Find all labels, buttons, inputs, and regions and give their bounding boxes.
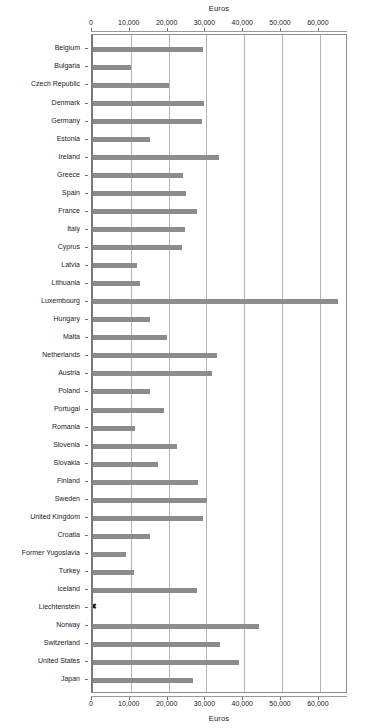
category-axis-tick — [85, 66, 88, 67]
category-axis-tick — [85, 157, 88, 158]
bar-row: ✖ — [93, 599, 346, 617]
bar-row — [93, 76, 346, 94]
bar — [93, 678, 193, 683]
x-tick-label: 30,000 — [194, 700, 215, 707]
category-label: Austria — [58, 368, 80, 377]
euros-bar-chart: Euros 010,00020,00030,00040,00050,00060,… — [0, 0, 365, 728]
category-axis-tick — [85, 355, 88, 356]
category-axis-tick — [85, 535, 88, 536]
category-label: Germany — [51, 116, 80, 125]
bar-row — [93, 221, 346, 239]
bar-row — [93, 437, 346, 455]
category-label: Iceland — [57, 584, 80, 593]
category-label: Japan — [61, 674, 80, 683]
category-label: Malta — [63, 332, 80, 341]
category-label: Portugal — [54, 404, 80, 413]
category-axis-tick — [85, 409, 88, 410]
bar — [93, 173, 183, 178]
category-label: Sweden — [55, 494, 80, 503]
bar — [93, 101, 204, 106]
category-label: United States — [38, 656, 80, 665]
bar — [93, 389, 150, 394]
bar-row — [93, 383, 346, 401]
category-label: Bulgaria — [54, 61, 80, 70]
bar — [93, 83, 169, 88]
bar-row — [93, 167, 346, 185]
bottom-axis-title: Euros — [91, 714, 347, 723]
bar-row — [93, 509, 346, 527]
category-label: Finland — [57, 476, 80, 485]
bar — [93, 534, 150, 539]
category-label: Italy — [67, 224, 80, 233]
x-axis-tick — [129, 697, 130, 700]
bar — [93, 155, 219, 160]
category-axis-tick — [85, 589, 88, 590]
bar-row — [93, 203, 346, 221]
category-axis-tick — [85, 427, 88, 428]
x-tick-label: 10,000 — [118, 19, 139, 26]
bar — [93, 317, 150, 322]
category-axis-tick — [85, 211, 88, 212]
category-axis-tick — [85, 661, 88, 662]
x-tick-label: 40,000 — [232, 19, 253, 26]
bar — [93, 335, 167, 340]
category-label: Spain — [62, 188, 80, 197]
bar-row — [93, 545, 346, 563]
bar-row — [93, 58, 346, 76]
x-axis-tick — [318, 28, 319, 31]
category-axis-tick — [85, 499, 88, 500]
bar — [93, 299, 338, 304]
bar — [93, 426, 135, 431]
bar — [93, 624, 259, 629]
x-axis-tick — [280, 697, 281, 700]
bar-row — [93, 635, 346, 653]
x-tick-label: 30,000 — [194, 19, 215, 26]
bar-row — [93, 329, 346, 347]
bar-row — [93, 275, 346, 293]
x-tick-label: 20,000 — [156, 19, 177, 26]
category-label: Czech Republic — [31, 79, 80, 88]
bar-row — [93, 257, 346, 275]
bar-row — [93, 365, 346, 383]
category-axis-tick — [85, 463, 88, 464]
category-label: Croatia — [57, 530, 80, 539]
x-axis-tick — [318, 697, 319, 700]
x-axis-tick — [91, 697, 92, 700]
category-axis-tick — [85, 679, 88, 680]
x-tick-label: 0 — [89, 700, 93, 707]
x-axis-tick — [129, 28, 130, 31]
category-label: Cyprus — [58, 242, 80, 251]
bar — [93, 371, 212, 376]
category-axis-tick — [85, 283, 88, 284]
category-axis-tick — [85, 193, 88, 194]
category-axis-tick — [85, 625, 88, 626]
category-axis-tick — [85, 643, 88, 644]
category-axis-tick — [85, 373, 88, 374]
category-label: Hungary — [54, 314, 80, 323]
category-axis-tick — [85, 301, 88, 302]
x-tick-label: 10,000 — [118, 700, 139, 707]
bar-row — [93, 149, 346, 167]
bar — [93, 480, 198, 485]
x-axis-tick — [204, 28, 205, 31]
bar-row — [93, 131, 346, 149]
category-axis-tick — [85, 48, 88, 49]
category-axis-tick — [85, 571, 88, 572]
bar — [93, 263, 137, 268]
bar-row — [93, 419, 346, 437]
bar-row — [93, 94, 346, 112]
bar — [93, 245, 182, 250]
category-label: Netherlands — [42, 350, 80, 359]
bar — [93, 227, 185, 232]
bar-row — [93, 455, 346, 473]
category-axis-tick — [85, 247, 88, 248]
category-label: Norway — [56, 620, 80, 629]
category-label: Latvia — [61, 260, 80, 269]
bar-row — [93, 311, 346, 329]
category-axis-tick — [85, 84, 88, 85]
bar — [93, 65, 131, 70]
bar — [93, 408, 164, 413]
x-axis-tick — [91, 28, 92, 31]
category-label: United Kingdom — [30, 512, 80, 521]
bar — [93, 137, 150, 142]
